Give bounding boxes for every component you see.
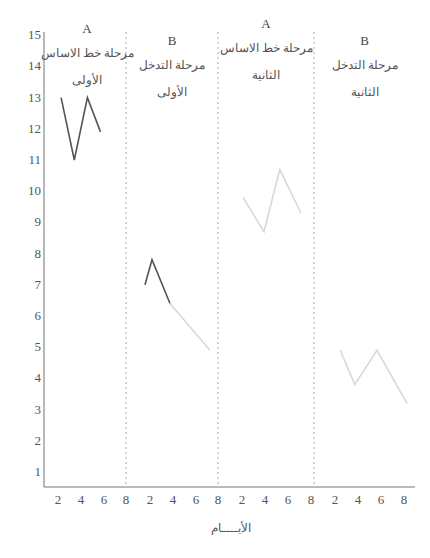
- y-tick-label: 11: [28, 152, 41, 167]
- x-axis-label: الأيــــام: [211, 520, 251, 535]
- y-tick-label: 5: [35, 339, 42, 354]
- phase-letter: A: [261, 16, 271, 31]
- y-tick-label: 7: [35, 277, 42, 292]
- y-tick-label: 14: [28, 58, 42, 73]
- x-tick-label: 6: [285, 492, 292, 507]
- series-line: [243, 169, 301, 231]
- y-tick-label: 12: [28, 121, 41, 136]
- x-tick-label: 6: [101, 492, 108, 507]
- y-tick-label: 9: [35, 214, 42, 229]
- x-tick-label: 6: [378, 492, 385, 507]
- phase-label-line1: مرحلة التدخل: [332, 58, 398, 72]
- series-line: [145, 260, 170, 304]
- y-tick-label: 1: [35, 464, 42, 479]
- x-tick-labels: 2468246824682468: [55, 492, 408, 507]
- phase-label-line2: الأولى: [72, 72, 102, 87]
- phase-label-line2: الأولى: [157, 84, 187, 99]
- phase-label-line1: مرحلة التدخل: [139, 58, 205, 72]
- data-series: [61, 98, 407, 404]
- axes: [44, 32, 415, 487]
- x-tick-label: 2: [332, 492, 339, 507]
- phase-labels: Aمرحلة خط الاساسالأولىBمرحلة التدخلالأول…: [41, 16, 398, 99]
- x-tick-label: 2: [147, 492, 154, 507]
- y-tick-label: 6: [35, 308, 42, 323]
- series-line-faded: [170, 304, 210, 351]
- phase-label-line1: مرحلة خط الاساس: [41, 46, 134, 60]
- y-tick-label: 15: [28, 27, 41, 42]
- single-case-design-chart: 123456789101112131415 2468246824682468 A…: [0, 0, 430, 558]
- phase-letter: A: [82, 21, 92, 36]
- x-tick-label: 8: [215, 492, 222, 507]
- x-tick-label: 8: [401, 492, 408, 507]
- x-tick-label: 2: [239, 492, 246, 507]
- y-tick-label: 13: [28, 90, 41, 105]
- x-tick-label: 4: [355, 492, 362, 507]
- y-tick-label: 10: [28, 183, 41, 198]
- x-tick-label: 6: [193, 492, 200, 507]
- phase-label-line1: مرحلة خط الاساس: [220, 41, 313, 55]
- phase-label-line2: الثانية: [252, 68, 280, 82]
- y-tick-label: 4: [35, 370, 42, 385]
- x-tick-label: 4: [262, 492, 269, 507]
- x-tick-label: 4: [170, 492, 177, 507]
- x-tick-label: 4: [78, 492, 85, 507]
- phase-dividers: [126, 32, 314, 487]
- y-tick-label: 3: [35, 402, 42, 417]
- phase-letter: B: [168, 33, 177, 48]
- x-tick-label: 8: [308, 492, 315, 507]
- y-tick-label: 2: [35, 433, 42, 448]
- series-line: [61, 98, 100, 160]
- phase-letter: B: [360, 33, 369, 48]
- x-tick-label: 8: [123, 492, 130, 507]
- series-line: [340, 350, 407, 403]
- y-tick-label: 8: [35, 246, 42, 261]
- x-tick-label: 2: [55, 492, 62, 507]
- y-tick-labels: 123456789101112131415: [28, 27, 42, 479]
- phase-label-line2: الثانية: [351, 85, 379, 99]
